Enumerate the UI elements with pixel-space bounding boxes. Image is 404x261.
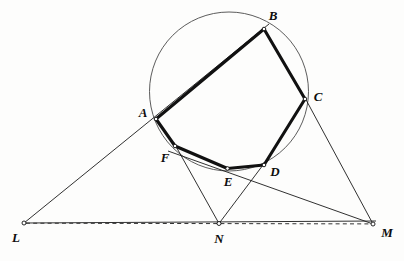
point-label-N: N — [214, 231, 223, 247]
vertex-dot-M — [371, 222, 375, 226]
vertex-dot-F — [173, 144, 177, 148]
line-N-D — [219, 161, 266, 224]
point-label-M: M — [381, 225, 393, 241]
dashed-line-LM — [26, 223, 371, 224]
vertex-dot-B — [262, 27, 266, 31]
geometry-figure: A B C D E F L N M — [0, 0, 404, 261]
hexagon-sides — [156, 29, 305, 169]
construction-lines — [24, 24, 376, 224]
point-label-F: F — [161, 150, 170, 166]
point-label-E: E — [224, 174, 233, 190]
side-CD — [264, 99, 305, 165]
side-EF — [175, 146, 228, 169]
vertex-dot-A — [154, 117, 158, 121]
vertex-dot-D — [262, 163, 266, 167]
point-label-D: D — [270, 164, 279, 180]
vertex-dots — [22, 27, 375, 226]
side-AB — [156, 29, 264, 119]
vertex-dot-C — [303, 97, 307, 101]
vertex-dot-E — [226, 167, 230, 171]
side-BC — [264, 29, 305, 99]
point-label-B: B — [269, 8, 278, 24]
vertex-dot-L — [22, 221, 26, 225]
point-label-A: A — [139, 105, 148, 121]
line-L-E-M — [24, 221, 376, 223]
figure-canvas — [0, 0, 404, 261]
side-FA — [156, 119, 175, 146]
point-label-C: C — [314, 89, 323, 105]
line-M-C — [304, 96, 373, 224]
side-DE — [228, 165, 265, 169]
point-label-L: L — [12, 230, 20, 246]
vertex-dot-N — [217, 222, 221, 226]
